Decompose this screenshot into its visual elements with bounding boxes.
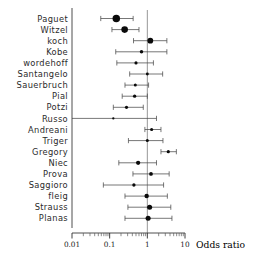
study-label: Prova — [43, 169, 68, 179]
study-label: Potzi — [47, 102, 68, 112]
x-axis-ticks — [72, 233, 185, 239]
study-label: wordehoff — [23, 58, 69, 68]
study-label: Kobe — [46, 47, 68, 57]
study-label: Niec — [48, 158, 68, 168]
forest-plot-canvas: PaguetWitzelkochKobewordehoffSantangeloS… — [0, 0, 253, 265]
study-label: Saggioro — [29, 180, 68, 190]
study-label: Pial — [52, 91, 68, 101]
study-label: Witzel — [41, 25, 68, 35]
point-estimate-marker — [146, 73, 149, 76]
study-label: Andreani — [28, 125, 68, 135]
x-axis-tick-labels: 0.010.1110 — [64, 240, 190, 249]
point-estimate-marker — [113, 15, 120, 22]
study-label: koch — [47, 36, 68, 46]
forest-plot-figure: PaguetWitzelkochKobewordehoffSantangeloS… — [0, 0, 253, 265]
point-estimate-marker — [136, 161, 140, 165]
point-estimate-marker — [147, 205, 152, 210]
x-axis-title: Odds ratio — [196, 239, 245, 250]
study-label: Planas — [39, 213, 68, 223]
point-estimate-marker — [146, 139, 149, 142]
study-rows-group: PaguetWitzelkochKobewordehoffSantangeloS… — [17, 10, 177, 233]
point-estimate-marker — [112, 117, 114, 119]
axis-group: 0.010.1110 — [64, 8, 190, 249]
study-label: Russo — [42, 114, 68, 124]
study-label: Santangelo — [18, 69, 68, 79]
study-label: Strauss — [35, 202, 68, 212]
study-label: Paguet — [37, 14, 68, 24]
point-estimate-marker — [144, 194, 148, 198]
point-estimate-marker — [147, 38, 153, 44]
study-label: Gregory — [32, 147, 68, 157]
point-estimate-marker — [134, 84, 137, 87]
point-estimate-marker — [167, 150, 170, 153]
point-estimate-marker — [150, 128, 153, 131]
study-label: fleig — [48, 191, 68, 201]
point-estimate-marker — [121, 26, 128, 33]
x-axis-tick-label: 0.01 — [64, 240, 80, 249]
point-estimate-marker — [146, 216, 151, 221]
study-label: Sauerbruch — [17, 80, 68, 90]
point-estimate-marker — [133, 95, 136, 98]
point-estimate-marker — [132, 183, 135, 186]
x-axis-tick-label: 10 — [180, 240, 190, 249]
study-label: Triger — [42, 136, 69, 146]
point-estimate-marker — [125, 106, 128, 109]
point-estimate-marker — [140, 50, 143, 53]
point-estimate-marker — [149, 172, 153, 176]
x-axis-tick-label: 0.1 — [104, 240, 116, 249]
x-axis-tick-label: 1 — [145, 240, 150, 249]
point-estimate-marker — [134, 61, 137, 64]
